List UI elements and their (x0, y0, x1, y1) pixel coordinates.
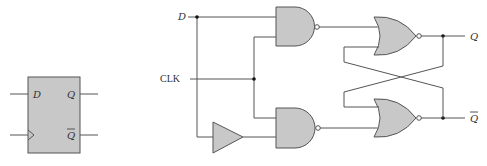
nand-top-bubble (315, 25, 320, 30)
d-flip-flop-symbol: D Q Q (10, 77, 98, 153)
nor-bottom-bubble (417, 116, 422, 121)
block-d-label: D (32, 89, 41, 100)
nor-gate-top-icon (374, 17, 416, 55)
d-input-label: D (177, 11, 186, 22)
block-qbar-label: Q (67, 130, 75, 141)
nor-top-bubble (417, 34, 422, 39)
q-output-label: Q (470, 31, 478, 42)
schematic: D CLK Q Q (160, 7, 478, 153)
nor-gate-bottom-icon (374, 99, 416, 137)
d-junction-dot (195, 15, 199, 19)
clk-vertical-wire (254, 37, 276, 118)
clk-input-label: CLK (160, 73, 181, 84)
clk-junction-dot (252, 77, 256, 81)
nand-gate-bottom-icon (276, 108, 315, 148)
block-q-label: Q (67, 89, 75, 100)
qbar-output-label: Q (470, 113, 478, 124)
nand-gate-top-icon (276, 7, 315, 46)
nand-bottom-bubble (316, 126, 321, 131)
buffer-gate-icon (213, 122, 243, 153)
